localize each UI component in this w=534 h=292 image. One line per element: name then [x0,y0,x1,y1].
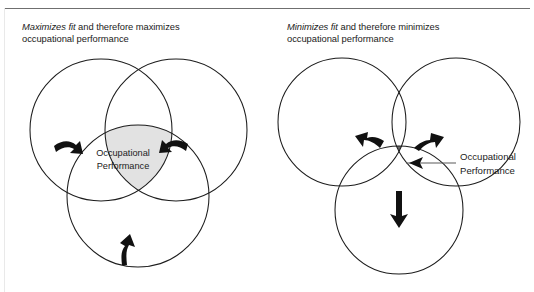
arrow-right-outward [414,133,444,151]
center-label-line-1: Occupational [96,148,150,158]
figure-root: Maximizes fit and therefore maximizes oc… [0,0,534,292]
panel-minimizes-fit: Minimizes fit and therefore minimizes oc… [271,8,534,292]
arrow-left-inward [54,141,83,154]
caption-line-1: Minimizes fit and therefore minimizes [287,21,439,33]
caption-rest: and therefore maximizes [76,21,180,32]
outer-label-line-2: Performance [460,165,515,176]
panel-maximizes-fit: Maximizes fit and therefore maximizes oc… [4,8,271,292]
arrow-right-inward [159,140,188,153]
caption-minimizes-fit: Minimizes fit and therefore minimizes oc… [287,21,439,46]
arrow-bottom-outward [390,191,408,228]
venn-diagram-maximizes-fit: Occupational Performance [4,44,271,292]
caption-maximizes-fit: Maximizes fit and therefore maximizes oc… [22,21,180,46]
outer-label-line-1: Occupational [460,151,516,162]
caption-emphasis: Maximizes fit [22,21,76,32]
arrow-bottom-inward [120,234,135,265]
caption-line-1: Maximizes fit and therefore maximizes [22,21,180,33]
leader-line-to-label [406,157,456,169]
caption-emphasis: Minimizes fit [287,21,338,32]
venn-diagram-minimizes-fit: Occupational Performance [271,44,534,292]
arrow-left-outward [355,132,384,148]
circle-person [278,58,406,186]
caption-rest: and therefore minimizes [338,21,439,32]
center-label-line-2: Performance [97,161,150,171]
